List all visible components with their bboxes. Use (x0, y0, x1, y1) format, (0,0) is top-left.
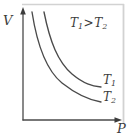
y-axis-label: V (3, 14, 12, 27)
plot-canvas (0, 0, 135, 138)
curve-label-t1: T1 (103, 74, 116, 88)
curve-label-t1-subscript: 1 (111, 79, 116, 88)
pv-isotherm-figure: V P T1>T2 T1 T2 (0, 0, 135, 138)
curve-label-t1-symbol: T (103, 73, 111, 87)
annotation-right-subscript: 2 (102, 22, 107, 31)
curve-label-t2: T2 (103, 91, 116, 105)
curve-label-t2-symbol: T (103, 90, 111, 104)
temperature-comparison-annotation: T1>T2 (70, 17, 107, 31)
curve-label-t2-subscript: 2 (111, 96, 116, 105)
annotation-right-symbol: T (94, 16, 102, 30)
annotation-operator: > (83, 16, 94, 30)
x-axis-label: P (117, 122, 126, 135)
annotation-left-symbol: T (70, 16, 78, 30)
y-axis-arrowhead (20, 7, 26, 15)
